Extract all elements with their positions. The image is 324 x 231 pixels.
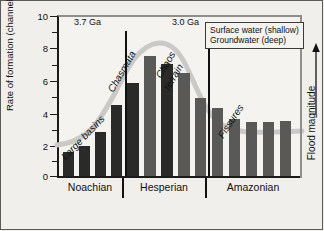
bar-12 xyxy=(246,122,257,178)
y-tick-label-4: 4 xyxy=(30,109,48,120)
era-label-hesperian: Hesperian xyxy=(124,181,204,193)
legend-item-groundwater: Groundwater (deep) xyxy=(210,35,299,45)
bar-14 xyxy=(280,121,291,178)
bar-5 xyxy=(127,83,139,178)
divider-3-0-ga xyxy=(208,31,210,178)
bar-10 xyxy=(212,108,223,178)
y-tick-label-0: 0 xyxy=(30,171,48,182)
y-tick-0 xyxy=(50,176,57,177)
bar-4 xyxy=(111,105,122,178)
legend-item-surface-water: Surface water (shallow) xyxy=(210,25,299,35)
bar-13 xyxy=(263,122,274,178)
y-tick-label-8: 8 xyxy=(30,43,48,54)
era-label-amazonian: Amazonian xyxy=(207,181,299,193)
bar-2 xyxy=(79,146,90,178)
figure-root: Rate of formation (channels/billion year… xyxy=(0,0,324,231)
bar-3 xyxy=(95,132,106,178)
x-axis-line xyxy=(57,176,302,178)
y-axis-title: Rate of formation (channels/billion year… xyxy=(4,0,18,111)
legend-box: Surface water (shallow) Groundwater (dee… xyxy=(205,22,304,49)
right-axis-title: Flood magnitude xyxy=(306,58,320,188)
y-tick-label-2: 2 xyxy=(30,141,48,152)
y-tick-6 xyxy=(50,81,57,82)
y-tick-4 xyxy=(50,114,57,115)
y-tick-label-10: 10 xyxy=(30,11,48,22)
bar-9 xyxy=(195,98,206,178)
y-tick-label-6: 6 xyxy=(30,76,48,87)
y-tick-8 xyxy=(50,48,57,49)
y-tick-10 xyxy=(50,16,57,17)
age-marker-3-0-ga: 3.0 Ga xyxy=(172,17,199,27)
bar-8 xyxy=(178,73,190,178)
era-label-noachian: Noachian xyxy=(58,181,122,193)
age-marker-3-7-ga: 3.7 Ga xyxy=(74,17,101,27)
